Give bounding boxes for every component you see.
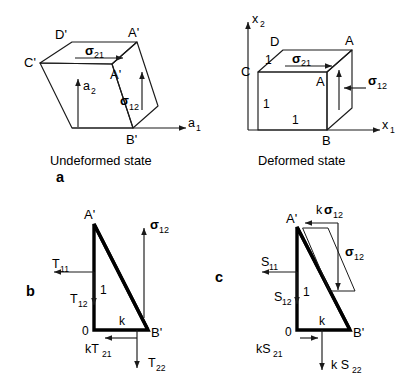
panel-b-sigma12-subscript: 12: [159, 225, 169, 235]
panel-b-T12-arrow: [91, 272, 97, 305]
label-B: B: [322, 133, 331, 148]
x1-axis-head: [373, 127, 380, 133]
dim-left-one: 1: [263, 97, 270, 111]
deformed-sigma12-leader: [344, 85, 366, 91]
panel-b-label-one: 1: [100, 283, 107, 297]
deformed-x1-axis: [248, 127, 380, 133]
panel-c-kS21-subscript: 21: [273, 349, 283, 359]
a2-axis-head: [75, 79, 81, 86]
panel-b-kT21-symbol: kT: [85, 342, 99, 356]
panel-c-S11-subscript: 11: [269, 262, 278, 272]
deformed-sigma12-head: [336, 70, 342, 77]
panel-b-T12-symbol: T: [70, 292, 78, 306]
deformed-sigma21-symbol: σ: [292, 51, 301, 66]
panel-c-S12-head: [294, 297, 300, 304]
undeformed-sigma12-arrow: [139, 72, 145, 110]
panel-b-kT21-head: [105, 335, 112, 341]
a1-axis-head: [179, 125, 186, 131]
label-a1-axis: a 1: [188, 116, 201, 133]
label-sigma12-deformed: σ 12: [368, 73, 387, 91]
a2-symbol: a: [83, 79, 90, 93]
panel-label-b: b: [26, 283, 35, 299]
panel-c-kS22-subscript: 22: [352, 365, 362, 375]
panel-c-S12-subscript: 12: [282, 297, 292, 307]
panel-c-sigma12-symbol: σ: [345, 244, 354, 259]
panel-label-c: c: [215, 269, 223, 285]
panel-b-label-T12: T 12: [70, 292, 88, 309]
panel-b-label-kT21: kT 21: [85, 342, 112, 359]
panel-b-T12-subscript: 12: [78, 299, 88, 309]
label-x2-axis: x 2: [252, 12, 265, 29]
label-a2-axis: a 2: [83, 79, 96, 96]
a2-subscript: 2: [91, 86, 96, 96]
panel-c-label-ksigma12: k σ 12: [316, 202, 343, 220]
sigma12-arrow-head: [139, 72, 145, 79]
panel-b-T22-subscript: 22: [156, 363, 166, 373]
undeformed-a2-axis: [75, 79, 81, 127]
panel-b-label-B-prime: B': [151, 325, 162, 340]
label-C: C: [241, 64, 250, 79]
figure-container: D' C' A' A' B' σ 21 σ 12 a 2 a 1 Undefor…: [0, 0, 404, 385]
panel-b-T11-symbol: T: [52, 257, 60, 271]
undeformed-a1-axis: [72, 125, 186, 131]
panel-c-label-one: 1: [303, 285, 310, 299]
label-sigma21-undeformed: σ 21: [85, 43, 104, 60]
caption-deformed: Deformed state: [258, 153, 346, 168]
label-D-prime: D': [55, 27, 67, 42]
panel-c-triangle: [297, 227, 355, 330]
panel-c-ksigma12-prefix: k: [316, 203, 323, 217]
sigma21-arrow-head: [116, 55, 123, 61]
deformed-sigma12-subscript: 12: [377, 81, 387, 91]
sigma12-symbol: σ: [120, 93, 129, 108]
dim-bottom-one: 1: [292, 113, 299, 127]
mechanics-stress-figure: D' C' A' A' B' σ 21 σ 12 a 2 a 1 Undefor…: [0, 0, 404, 385]
panel-b-T12-head: [91, 298, 97, 305]
panel-c-label-S12: S 12: [274, 290, 292, 307]
a1-subscript: 1: [196, 123, 201, 133]
panel-b-kT21-arrow: [105, 335, 137, 341]
panel-c-S12-arrow: [294, 272, 300, 304]
panel-b-T22-arrow: [134, 330, 140, 368]
label-A-top: A: [345, 33, 354, 48]
label-sigma21-deformed: σ 21: [292, 51, 311, 68]
panel-c-label-kS21: kS 21: [256, 342, 283, 359]
panel-c-S11-arrow: [262, 269, 297, 275]
panel-c-ksigma12-symbol: σ: [324, 202, 333, 217]
x2-subscript: 2: [260, 19, 265, 29]
panel-c-label-S11: S 11: [261, 255, 278, 272]
deformed-sigma12-leader-head: [344, 85, 351, 91]
dim-top-one: 1: [265, 53, 272, 67]
panel-c-ksigma12-subscript: 12: [333, 210, 343, 220]
panel-b-label-T22: T 22: [148, 356, 166, 373]
x1-symbol: x: [382, 118, 389, 132]
label-B-prime: B': [126, 132, 137, 147]
panel-b-label-sigma12: σ 12: [150, 217, 169, 235]
sigma21-symbol: σ: [85, 43, 94, 58]
label-C-prime: C': [24, 55, 36, 70]
x2-symbol: x: [252, 12, 259, 26]
panel-b-sigma12-head: [141, 228, 147, 235]
deformed-sigma21-subscript: 21: [301, 58, 311, 68]
panel-c-label-B-prime: B': [353, 325, 364, 340]
sigma21-subscript: 21: [94, 50, 104, 60]
x2-axis-head: [245, 22, 251, 29]
panel-b-label-k: k: [119, 314, 126, 328]
panel-c-kS22-head: [319, 363, 325, 370]
panel-c-label-zero: 0: [285, 325, 292, 339]
panel-c-S11-head: [262, 269, 269, 275]
sigma12-subscript: 12: [129, 102, 139, 112]
panel-label-a: a: [56, 169, 65, 185]
panel-c-label-kS22: k S 22: [331, 358, 362, 375]
panel-c-sliver-parallelogram: [303, 228, 355, 291]
panel-b-label-zero: 0: [82, 324, 89, 338]
panel-c-label-A-prime: A': [286, 211, 297, 226]
panel-c-sigma12-head: [335, 283, 341, 290]
panel-b-sigma12-symbol: σ: [150, 217, 159, 232]
panel-c-kS21-head: [311, 335, 318, 341]
panel-b-T22-head: [134, 361, 140, 368]
deformed-sigma12-symbol: σ: [368, 73, 377, 88]
deformed-sigma12-arrow: [336, 70, 342, 110]
panel-b-label-A-prime: A': [84, 207, 95, 222]
label-A-front: A: [316, 74, 325, 89]
panel-b-T22-symbol: T: [148, 356, 156, 370]
